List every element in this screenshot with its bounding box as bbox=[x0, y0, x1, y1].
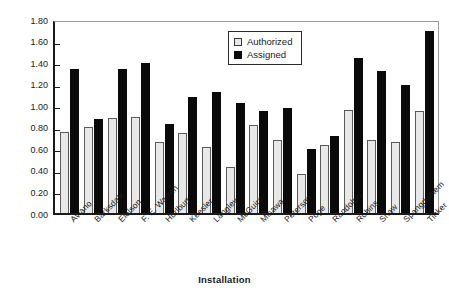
y-tick-label: 0.80 bbox=[18, 124, 48, 133]
bar-assigned bbox=[401, 85, 410, 213]
bar-group bbox=[342, 22, 366, 213]
y-tick-label: 0.40 bbox=[18, 167, 48, 176]
x-axis-title: Installation bbox=[0, 274, 449, 285]
chart-legend: AuthorizedAssigned bbox=[228, 31, 302, 65]
bar-group bbox=[58, 22, 82, 213]
bar-assigned bbox=[377, 71, 386, 213]
legend-label: Assigned bbox=[247, 49, 286, 60]
bar-assigned bbox=[141, 63, 150, 213]
bar-group bbox=[365, 22, 389, 213]
y-tick-label: 1.40 bbox=[18, 60, 48, 69]
training-load-bar-chart: Training load 1.801.601.401.201.000.800.… bbox=[0, 0, 449, 294]
bar-group bbox=[389, 22, 413, 213]
bar-group bbox=[200, 22, 224, 213]
x-axis-tick-labels: AvianoBarksdaleEielsonF. E. WarrenHurlbu… bbox=[53, 217, 439, 269]
y-tick-label: 1.20 bbox=[18, 81, 48, 90]
bar-group bbox=[82, 22, 106, 213]
legend-label: Authorized bbox=[247, 36, 292, 47]
bar-group bbox=[176, 22, 200, 213]
bar-assigned bbox=[212, 92, 221, 213]
bar-group bbox=[129, 22, 153, 213]
legend-item: Authorized bbox=[234, 35, 292, 48]
bar-assigned bbox=[70, 69, 79, 213]
bar-assigned bbox=[188, 97, 197, 213]
bar-group bbox=[318, 22, 342, 213]
bar-authorized bbox=[320, 145, 329, 213]
y-tick-label: 1.00 bbox=[18, 103, 48, 112]
bar-assigned bbox=[94, 119, 103, 213]
y-tick-label: 1.80 bbox=[18, 17, 48, 26]
bar-authorized bbox=[60, 132, 69, 213]
bar-assigned bbox=[330, 136, 339, 213]
y-tick-label: 1.60 bbox=[18, 38, 48, 47]
legend-item: Assigned bbox=[234, 48, 292, 61]
y-axis-tick-labels: 1.801.601.401.201.000.800.600.400.200.00 bbox=[18, 21, 48, 215]
bar-group bbox=[105, 22, 129, 213]
y-tick-label: 0.00 bbox=[18, 211, 48, 220]
y-tick-label: 0.60 bbox=[18, 146, 48, 155]
legend-swatch-authorized bbox=[234, 38, 242, 46]
bar-assigned bbox=[354, 58, 363, 213]
y-tick-label: 0.20 bbox=[18, 189, 48, 198]
bar-assigned bbox=[236, 103, 245, 213]
legend-swatch-assigned bbox=[234, 51, 242, 59]
bar-assigned bbox=[283, 108, 292, 213]
